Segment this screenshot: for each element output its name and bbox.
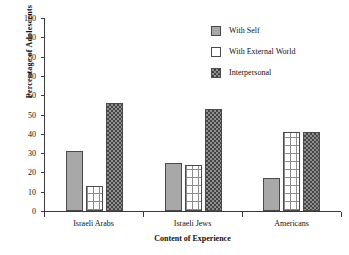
x-label-israeli-jews: Israeli Jews [143,219,242,228]
y-tick-label-10: 10 [28,189,36,197]
y-tick-label-50: 50 [28,112,36,120]
x-tick-0 [44,212,45,217]
plot-area: 100 90 80 70 60 50 40 30 20 10 0 [44,18,341,212]
y-tick-label-90: 90 [28,34,36,42]
bar-israeli-arabs-with-external-world [86,186,103,211]
y-tick-label-30: 30 [28,150,36,158]
legend-label-with-self: With Self [229,26,260,35]
y-tick-label-60: 60 [28,92,36,100]
y-tick-label-40: 40 [28,131,36,139]
y-tick-label-100: 100 [24,15,36,23]
legend-swatch-with-external-world-icon [211,47,221,57]
bar-israeli-jews-with-external-world [185,165,202,211]
bar-americans-interpersonal [303,132,320,211]
bar-israeli-jews-interpersonal [205,109,222,211]
x-axis-ticks [44,212,341,218]
bar-israeli-arabs-interpersonal [106,103,123,211]
bar-group-israeli-arabs [45,18,144,211]
legend-swatch-with-self-icon [211,26,221,36]
bar-groups [45,18,341,211]
bar-israeli-arabs-with-self [66,151,83,211]
y-tick-label-0: 0 [32,208,36,216]
y-tick-label-80: 80 [28,54,36,62]
x-tick-2 [242,212,243,217]
x-tick-3 [341,212,342,217]
legend-label-with-external-world: With External World [229,47,295,56]
x-label-israeli-arabs: Israeli Arabs [44,219,143,228]
bar-israeli-jews-with-self [165,163,182,211]
chart-legend: With Self With External World Interperso… [211,22,295,85]
bar-chart: Percentage of Adolescents 100 90 80 70 6… [0,0,349,255]
legend-swatch-interpersonal-icon [211,68,221,78]
y-tick-label-70: 70 [28,73,36,81]
bar-americans-with-external-world [283,132,300,211]
x-axis-title: Content of Experience [44,234,341,243]
y-tick-label-20: 20 [28,169,36,177]
legend-item-interpersonal: Interpersonal [211,64,295,81]
legend-item-with-self: With Self [211,22,295,39]
legend-label-interpersonal: Interpersonal [229,68,271,77]
bar-americans-with-self [263,178,280,211]
x-axis-labels: Israeli Arabs Israeli Jews Americans [44,219,341,228]
legend-item-with-external-world: With External World [211,43,295,60]
x-label-americans: Americans [242,219,341,228]
x-tick-1 [143,212,144,217]
